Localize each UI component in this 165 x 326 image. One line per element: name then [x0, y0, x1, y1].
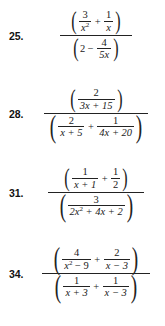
- complex-fraction-31: ( 1 x + 1 + 1 2 ): [27, 165, 165, 219]
- fraction: 1 2: [111, 166, 120, 191]
- fraction-numerator: 2: [92, 87, 101, 99]
- complex-denominator-25: ( 2 − 4 5x ): [73, 36, 119, 63]
- problem-number-31: 31.: [9, 185, 23, 199]
- fraction-denominator: 2: [111, 179, 120, 191]
- fraction-denominator: x + 5: [58, 127, 84, 139]
- fraction-numerator: 1: [111, 115, 120, 127]
- paren-right-icon: ): [116, 9, 120, 34]
- fraction: 3 2x2 + 4x + 2: [68, 194, 125, 219]
- paren-group: ( 1 x + 3 + 1 x − 3: [55, 275, 136, 300]
- problem-number-25: 25.: [9, 28, 23, 42]
- paren-left-icon: (: [61, 194, 65, 219]
- fraction-numerator: 2: [112, 247, 121, 259]
- fraction-denominator: x + 3: [63, 287, 89, 299]
- fraction-denominator: x2: [79, 22, 91, 34]
- fraction-denominator: 3x + 15: [78, 100, 115, 112]
- fraction-denominator: x: [104, 22, 113, 34]
- fraction: 2 x − 3: [104, 247, 130, 272]
- problem-number-28: 28.: [9, 106, 23, 120]
- fraction: 1 x − 3: [103, 275, 129, 300]
- fraction-numerator: 1: [104, 9, 113, 21]
- problem-34: 34. ( 4 x2 − 9 + 2 x: [0, 246, 165, 300]
- complex-denominator-28: ( 2 x + 5 + 1 4x + 20: [50, 114, 142, 141]
- paren-group: ( 2 3x + 15 ): [70, 87, 123, 112]
- problem-31: 31. ( 1 x + 1 + 1 2: [0, 165, 165, 219]
- paren-right-icon: ): [118, 87, 122, 112]
- paren-right-icon: ): [132, 275, 136, 300]
- worksheet-page: 5x 25. ( 3 x2 + 1: [0, 0, 165, 326]
- fraction-denominator: 5x: [97, 49, 111, 61]
- paren-group: ( 2 − 4 5x ): [73, 37, 119, 62]
- fraction-denominator: x − 3: [104, 260, 130, 272]
- paren-group: ( 3 2x2 + 4x + 2 ): [60, 194, 133, 219]
- fraction-denominator: x2 − 9: [62, 260, 91, 272]
- fraction-numerator: 4: [72, 247, 81, 259]
- complex-fraction-28: ( 2 3x + 15 ) (: [27, 86, 165, 140]
- complex-numerator-25: ( 3 x2 + 1 x ): [71, 8, 121, 35]
- paren-group: ( 1 x + 1 + 1 2 ): [64, 166, 128, 191]
- fraction: 4 x2 − 9: [62, 247, 91, 272]
- fraction: 1 x: [104, 9, 113, 34]
- fraction-numerator: 3: [92, 194, 101, 206]
- paren-left-icon: (: [72, 9, 76, 34]
- fraction-denominator: x + 1: [72, 179, 98, 191]
- operator: +: [92, 254, 103, 265]
- fraction: 4 5x: [97, 37, 111, 62]
- fraction: 1 4x + 20: [97, 115, 134, 140]
- paren-left-icon: (: [71, 87, 75, 112]
- operator: −: [85, 43, 96, 54]
- paren-left-icon: (: [74, 37, 78, 62]
- fraction-denominator: 2x2 + 4x + 2: [68, 206, 125, 218]
- complex-denominator-34: ( 1 x + 3 + 1 x − 3: [55, 274, 136, 301]
- fraction: 2 x + 5: [58, 115, 84, 140]
- fraction: 3 x2: [79, 9, 91, 34]
- fraction: 2 3x + 15: [78, 87, 115, 112]
- paren-right-icon: ): [128, 194, 132, 219]
- problem-28: 28. ( 2 3x + 15 ) (: [0, 86, 165, 140]
- problem-25: 25. ( 3 x2 + 1 x: [0, 8, 165, 62]
- fraction: 1 x + 1: [72, 166, 98, 191]
- operator: +: [92, 16, 103, 27]
- complex-numerator-34: ( 4 x2 − 9 + 2 x − 3: [54, 246, 138, 273]
- paren-group: ( 4 x2 − 9 + 2 x − 3: [54, 247, 138, 272]
- operator: +: [91, 281, 102, 292]
- fraction-numerator: 2: [67, 115, 76, 127]
- fraction-numerator: 1: [111, 275, 120, 287]
- operator: +: [85, 121, 96, 132]
- fraction-numerator: 4: [100, 37, 109, 49]
- fraction-denominator: 4x + 20: [97, 127, 134, 139]
- complex-fraction-34: ( 4 x2 − 9 + 2 x − 3: [27, 246, 165, 300]
- complex-numerator-31: ( 1 x + 1 + 1 2 ): [64, 165, 128, 192]
- paren-left-icon: (: [51, 115, 55, 140]
- complex-fraction-25: ( 3 x2 + 1 x ): [27, 8, 165, 62]
- fraction-numerator: 1: [80, 166, 89, 178]
- fraction-denominator: x − 3: [103, 287, 129, 299]
- paren-group: ( 2 x + 5 + 1 4x + 20: [50, 115, 142, 140]
- paren-right-icon: ): [114, 37, 118, 62]
- operator: +: [99, 173, 110, 184]
- paren-right-icon: ): [137, 115, 141, 140]
- paren-group: ( 3 x2 + 1 x ): [71, 9, 121, 34]
- fraction-numerator: 1: [111, 166, 120, 178]
- fraction-numerator: 3: [80, 9, 89, 21]
- fraction-numerator: 1: [72, 275, 81, 287]
- problem-number-34: 34.: [9, 266, 23, 280]
- fraction: 1 x + 3: [63, 275, 89, 300]
- complex-numerator-28: ( 2 3x + 15 ): [70, 86, 123, 113]
- paren-left-icon: (: [57, 275, 61, 300]
- complex-denominator-31: ( 3 2x2 + 4x + 2 ): [60, 193, 133, 220]
- clipped-previous-row: 5x: [40, 0, 130, 4]
